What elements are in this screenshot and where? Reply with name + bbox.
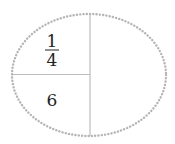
fraction-numerator: 1 [47, 31, 58, 51]
fraction-denominator: 4 [47, 50, 58, 70]
partitioned-oval-diagram: 1 4 6 [0, 0, 175, 144]
fraction-top-left: 1 4 [45, 31, 59, 70]
value-bottom-left: 6 [47, 90, 58, 110]
